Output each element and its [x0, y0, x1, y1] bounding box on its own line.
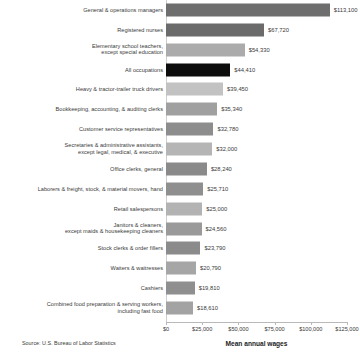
source-note: Source: U.S. Bureau of Labor Statistics — [22, 340, 116, 346]
plot-area: General & operations managers$113,100Reg… — [0, 0, 360, 318]
bar-value-label: $44,410 — [234, 63, 255, 76]
bar-value-label: $19,810 — [199, 282, 220, 295]
bar-value-label: $28,240 — [211, 162, 232, 175]
axis-tick-label: $125,000 — [335, 326, 358, 332]
bar-row[interactable]: All occupations$44,410 — [0, 60, 360, 80]
bar-and-value: $19,810 — [166, 282, 220, 295]
category-label: Elementary school teachers, except speci… — [0, 43, 163, 56]
bar-and-value: $35,340 — [166, 103, 242, 116]
category-label: Office clerks, general — [0, 166, 163, 173]
bar-row[interactable]: General & operations managers$113,100 — [0, 0, 360, 20]
bar-row[interactable]: Laborers & freight, stock, & material mo… — [0, 179, 360, 199]
bar-and-value: $20,790 — [166, 262, 221, 275]
bar-and-value: $25,710 — [166, 182, 228, 195]
bar-value-label: $23,790 — [204, 242, 225, 255]
category-label: Janitors & cleaners, except maids & hous… — [0, 222, 163, 235]
bar[interactable] — [166, 43, 245, 56]
bar-row[interactable]: Heavy & tractor-trailer truck drivers$39… — [0, 80, 360, 100]
bar-and-value: $32,000 — [166, 143, 237, 156]
bar-row[interactable]: Cashiers$19,810 — [0, 278, 360, 298]
bar[interactable] — [166, 123, 213, 136]
bar[interactable] — [166, 63, 230, 76]
bar-and-value: $67,720 — [166, 23, 289, 36]
bar-row[interactable]: Office clerks, general$28,240 — [0, 159, 360, 179]
bar[interactable] — [166, 162, 207, 175]
bar-row[interactable]: Janitors & cleaners, except maids & hous… — [0, 219, 360, 239]
bar-row[interactable]: Combined food preparation & serving work… — [0, 298, 360, 318]
bar[interactable] — [166, 242, 200, 255]
bar-row[interactable]: Waiters & waitresses$20,790 — [0, 258, 360, 278]
bar-value-label: $25,000 — [206, 202, 227, 215]
category-label: Customer service representatives — [0, 126, 163, 133]
bar-value-label: $18,610 — [197, 302, 218, 315]
axis-tick — [238, 322, 239, 325]
axis-tick — [275, 322, 276, 325]
axis-tick — [202, 322, 203, 325]
bar-value-label: $39,450 — [227, 83, 248, 96]
bar-and-value: $23,790 — [166, 242, 225, 255]
bar-value-label: $32,000 — [216, 143, 237, 156]
bar-and-value: $32,780 — [166, 123, 238, 136]
bar-row[interactable]: Elementary school teachers, except speci… — [0, 40, 360, 60]
bar-value-label: $32,780 — [217, 123, 238, 136]
bar-and-value: $113,100 — [166, 3, 358, 16]
bar-row[interactable]: Secretaries & administrative assistants,… — [0, 139, 360, 159]
category-label: Bookkeeping, accounting, & auditing cler… — [0, 106, 163, 113]
wages-bar-chart: General & operations managers$113,100Reg… — [0, 0, 360, 353]
bar[interactable] — [166, 202, 202, 215]
bar-row[interactable]: Bookkeeping, accounting, & auditing cler… — [0, 99, 360, 119]
category-label: Combined food preparation & serving work… — [0, 301, 163, 314]
bar-value-label: $67,720 — [268, 23, 289, 36]
category-label: Cashiers — [0, 285, 163, 292]
bar[interactable] — [166, 302, 193, 315]
bar[interactable] — [166, 143, 212, 156]
bar-and-value: $39,450 — [166, 83, 248, 96]
bar-and-value: $24,560 — [166, 222, 227, 235]
x-axis-title: Mean annual wages — [166, 340, 347, 347]
bar-value-label: $24,560 — [206, 222, 227, 235]
axis-tick-label: $25,000 — [192, 326, 212, 332]
category-label: All occupations — [0, 66, 163, 73]
bar-row[interactable]: Retail salespersons$25,000 — [0, 199, 360, 219]
bar[interactable] — [166, 83, 223, 96]
bar[interactable] — [166, 103, 217, 116]
bar-row[interactable]: Stock clerks & order fillers$23,790 — [0, 239, 360, 259]
bar-and-value: $44,410 — [166, 63, 255, 76]
category-label: Retail salespersons — [0, 205, 163, 212]
value-axis-line — [166, 322, 347, 323]
axis-tick-label: $50,000 — [228, 326, 248, 332]
axis-tick-label: $75,000 — [264, 326, 284, 332]
bar[interactable] — [166, 3, 330, 16]
bar[interactable] — [166, 262, 196, 275]
category-label: Registered nurses — [0, 27, 163, 34]
bar-value-label: $35,340 — [221, 103, 242, 116]
bar-and-value: $18,610 — [166, 302, 218, 315]
axis-tick — [347, 322, 348, 325]
axis-tick — [166, 322, 167, 325]
category-label: Secretaries & administrative assistants,… — [0, 142, 163, 155]
bar-value-label: $20,790 — [200, 262, 221, 275]
bar-and-value: $28,240 — [166, 162, 232, 175]
category-label: Waiters & waitresses — [0, 265, 163, 272]
bar-row[interactable]: Registered nurses$67,720 — [0, 20, 360, 40]
axis-tick — [311, 322, 312, 325]
bar-and-value: $25,000 — [166, 202, 227, 215]
category-label: Stock clerks & order fillers — [0, 245, 163, 252]
bar[interactable] — [166, 182, 203, 195]
bar-and-value: $54,330 — [166, 43, 270, 56]
bar-value-label: $113,100 — [334, 3, 358, 16]
axis-tick-label: $0 — [163, 326, 169, 332]
bar-value-label: $25,710 — [207, 182, 228, 195]
bar[interactable] — [166, 282, 195, 295]
category-label: Laborers & freight, stock, & material mo… — [0, 186, 163, 193]
bar[interactable] — [166, 23, 264, 36]
bar-row[interactable]: Customer service representatives$32,780 — [0, 119, 360, 139]
category-label: Heavy & tractor-trailer truck drivers — [0, 86, 163, 93]
axis-tick-label: $100,000 — [299, 326, 322, 332]
category-label: General & operations managers — [0, 7, 163, 14]
bar[interactable] — [166, 222, 202, 235]
bar-value-label: $54,330 — [249, 43, 270, 56]
